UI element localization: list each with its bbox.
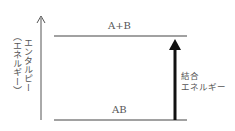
bond-energy-label: 結合 エネルギー	[181, 71, 226, 93]
bond-energy-arrowhead-icon	[169, 39, 181, 50]
axis-sublabel: （エネルギー）	[12, 32, 22, 95]
bond-energy-label-line1: 結合	[181, 71, 226, 82]
lower-level-label: AB	[112, 104, 127, 115]
upper-level-label: A+B	[108, 20, 131, 31]
axis-label: エンタルピー	[23, 38, 33, 92]
bond-energy-label-line2: エネルギー	[181, 82, 226, 93]
